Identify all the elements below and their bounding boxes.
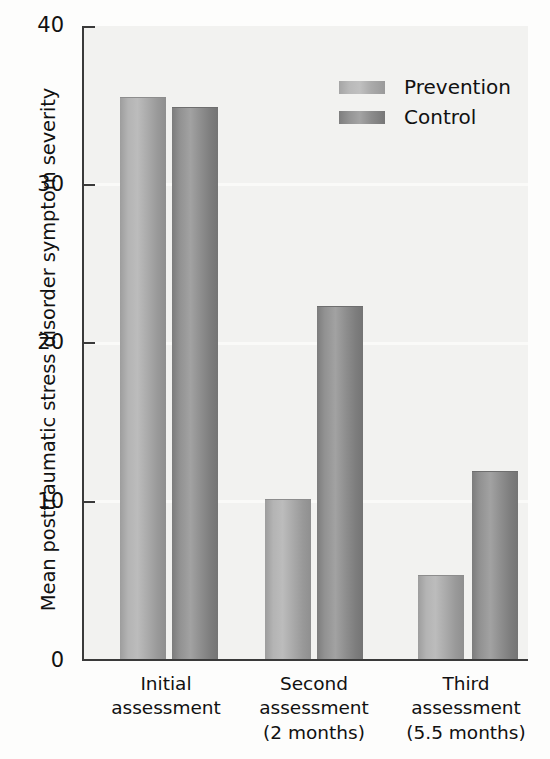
- x-category-label-initial: Initial assessment: [96, 672, 236, 721]
- x-category-label-third: Third assessment (5.5 months): [390, 672, 542, 745]
- y-tick-mark-20: [84, 342, 95, 344]
- bar-prevention-second: [265, 499, 311, 659]
- legend: Prevention Control: [339, 72, 511, 132]
- bar-control-third: [472, 471, 518, 659]
- y-tick-mark-10: [84, 501, 95, 503]
- legend-item-control: Control: [339, 102, 511, 132]
- x-category-label-second: Second assessment (2 months): [240, 672, 388, 745]
- y-tick-label-40: 40: [20, 15, 64, 36]
- legend-label-prevention: Prevention: [404, 75, 511, 99]
- y-tick-mark-40: [84, 26, 95, 28]
- bar-control-second: [317, 306, 363, 659]
- y-tick-label-30: 30: [20, 174, 64, 195]
- bar-chart-figure: Mean posttraumatic stress disorder sympt…: [0, 0, 550, 759]
- y-tick-label-10: 10: [20, 491, 64, 512]
- legend-swatch-control: [339, 111, 385, 124]
- y-tick-label-0: 0: [20, 650, 64, 671]
- legend-item-prevention: Prevention: [339, 72, 511, 102]
- plot-area: Prevention Control: [82, 26, 528, 661]
- legend-swatch-prevention: [339, 81, 385, 94]
- bar-prevention-initial: [120, 97, 166, 659]
- bar-control-initial: [172, 107, 218, 659]
- legend-label-control: Control: [404, 105, 476, 129]
- bar-prevention-third: [418, 575, 464, 659]
- y-tick-mark-30: [84, 184, 95, 186]
- y-tick-label-20: 20: [20, 332, 64, 353]
